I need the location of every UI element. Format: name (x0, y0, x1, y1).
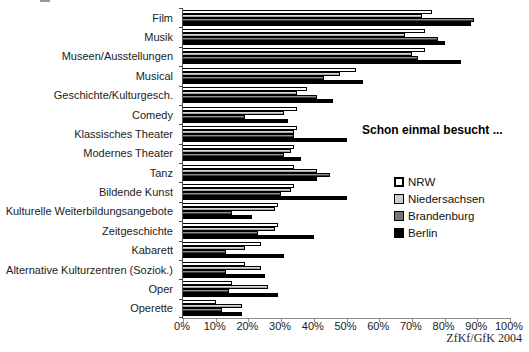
category-label: Geschichte/Kulturgesch. (0, 86, 178, 105)
bar-group (183, 144, 510, 163)
top-edge-artifact (40, 0, 50, 2)
legend-label: Niedersachsen (408, 193, 485, 205)
y-axis-tick (179, 27, 182, 28)
bar (183, 157, 301, 161)
bar (183, 235, 314, 239)
legend-item-berlin: Berlin (394, 227, 485, 239)
bar (183, 177, 317, 181)
bar (183, 99, 333, 103)
category-label: Film (0, 8, 178, 27)
category-label: Kulturelle Weiterbildungsangebote (0, 202, 178, 221)
category-label: Operette (0, 299, 178, 318)
bar (183, 196, 347, 200)
y-axis-tick (179, 66, 182, 67)
bar (183, 293, 278, 297)
plot-area (182, 8, 510, 319)
bar-group (183, 241, 510, 260)
x-axis-tick-label: 40% (302, 320, 324, 332)
legend-item-nrw: NRW (394, 176, 485, 188)
y-axis-tick (179, 299, 182, 300)
bar (183, 215, 252, 219)
x-axis-tick-label: 60% (367, 320, 389, 332)
source-credit: ZfKf/GfK 2004 (446, 331, 522, 346)
y-axis-tick (179, 241, 182, 242)
y-axis-tick (179, 144, 182, 145)
bar-group (183, 47, 510, 66)
bar (183, 254, 284, 258)
x-axis-tick-label: 10% (204, 320, 226, 332)
bar (183, 22, 471, 26)
y-axis-tick (179, 124, 182, 125)
legend-swatch (394, 194, 404, 204)
legend-swatch (394, 211, 404, 221)
legend-item-niedersachsen: Niedersachsen (394, 193, 485, 205)
bar-group (183, 279, 510, 298)
legend-item-brandenburg: Brandenburg (394, 210, 485, 222)
category-label: Klassisches Theater (0, 124, 178, 143)
y-axis-tick (179, 86, 182, 87)
category-label: Museen/Ausstellungen (0, 47, 178, 66)
bar (183, 80, 363, 84)
legend-label: Brandenburg (408, 210, 475, 222)
category-label: Tanz (0, 163, 178, 182)
y-axis-tick (179, 105, 182, 106)
category-labels: FilmMusikMuseen/AusstellungenMusicalGesc… (0, 8, 178, 318)
legend: NRWNiedersachsenBrandenburgBerlin (394, 176, 485, 239)
bar (183, 274, 265, 278)
x-axis-tick-label: 50% (334, 320, 356, 332)
bar-group (183, 27, 510, 46)
bar (183, 41, 445, 45)
y-axis-tick (179, 8, 182, 9)
category-label: Modernes Theater (0, 144, 178, 163)
y-axis-tick (179, 279, 182, 280)
bar-group (183, 86, 510, 105)
chart-annotation: Schon einmal besucht ... (362, 123, 503, 137)
category-label: Alternative Kulturzentren (Soziok.) (0, 260, 178, 279)
y-axis-tick (179, 260, 182, 261)
category-label: Zeitgeschichte (0, 221, 178, 240)
bar-group (183, 260, 510, 279)
bar (183, 60, 461, 64)
bar (183, 312, 242, 316)
x-axis-tick-label: 70% (400, 320, 422, 332)
y-axis-tick (179, 47, 182, 48)
bar (183, 119, 288, 123)
category-label: Musical (0, 66, 178, 85)
y-axis-tick (179, 182, 182, 183)
bar-group (183, 66, 510, 85)
category-label: Kabarett (0, 241, 178, 260)
x-axis-tick-label: 20% (236, 320, 258, 332)
category-label: Oper (0, 279, 178, 298)
category-label: Bildende Kunst (0, 182, 178, 201)
legend-label: Berlin (408, 227, 437, 239)
y-axis-tick (179, 221, 182, 222)
x-axis-tick-label: 30% (269, 320, 291, 332)
bar-group (183, 8, 510, 27)
y-axis-tick (179, 163, 182, 164)
bar-group (183, 105, 510, 124)
legend-label: NRW (408, 176, 435, 188)
y-axis-tick (179, 202, 182, 203)
bar (183, 138, 347, 142)
category-label: Musik (0, 27, 178, 46)
bar-chart-figure: FilmMusikMuseen/AusstellungenMusicalGesc… (0, 0, 529, 352)
bar-group (183, 299, 510, 318)
legend-swatch (394, 228, 404, 238)
legend-swatch (394, 177, 404, 187)
category-label: Comedy (0, 105, 178, 124)
x-axis-tick-label: 0% (174, 320, 190, 332)
y-axis-tick (179, 317, 182, 318)
